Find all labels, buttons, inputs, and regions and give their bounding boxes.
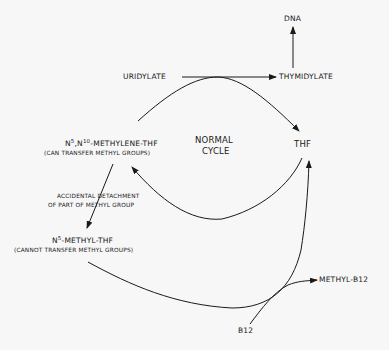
arrows-layer	[0, 0, 389, 350]
arrow-thf-to-methylene-thf	[132, 158, 302, 219]
arrow-methylene-thf-to-thf	[138, 77, 299, 131]
methyl-thf-suffix: -METHYL-THF	[62, 236, 114, 245]
normal-cycle-line1: NORMAL	[195, 136, 233, 145]
node-methyl-b12: METHYL-B12	[319, 276, 368, 284]
node-dna: DNA	[284, 15, 301, 23]
pathway-diagram: DNA URIDYLATE THYMIDYLATE N5,N10-METHYLE…	[0, 0, 389, 350]
edge-label-accidental-2: OF PART OF METHYL GROUP	[48, 203, 134, 209]
methyl-thf-note: (CANNOT TRANSFER METHYL GROUPS)	[14, 248, 133, 254]
node-methyl-thf: N5-METHYL-THF	[52, 236, 113, 245]
methylene-thf-mid: ,N	[75, 139, 83, 148]
arrow-methyl-thf-to-thf	[88, 161, 309, 308]
normal-cycle-line2: CYCLE	[202, 147, 230, 156]
node-uridylate: URIDYLATE	[123, 73, 166, 81]
node-thymidylate: THYMIDYLATE	[279, 73, 333, 81]
methylene-thf-note: (CAN TRANSFER METHYL GROUPS)	[44, 151, 150, 157]
node-methylene-thf: N5,N10-METHYLENE-THF	[65, 139, 158, 148]
methylene-thf-suffix: -METHYLENE-THF	[90, 139, 157, 148]
node-thf: THF	[294, 140, 311, 149]
node-b12: B12	[238, 327, 253, 335]
edge-label-accidental-1: ACCIDENTAL DETACHMENT	[57, 194, 140, 200]
